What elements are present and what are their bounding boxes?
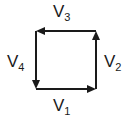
vector-label-v2: V2	[104, 53, 121, 73]
vector-diagram: V3 V2 V4 V1	[0, 0, 129, 120]
vector-v4-arrowhead	[32, 80, 40, 89]
vector-v3-arrow	[36, 27, 96, 35]
vector-v3-arrowhead	[36, 27, 45, 35]
vector-label-v4: V4	[7, 53, 24, 73]
vector-v1-arrow	[36, 85, 96, 93]
vector-label-v1-subscript: 1	[64, 105, 70, 117]
vector-label-v4-base: V	[7, 52, 18, 71]
vector-label-v2-subscript: 2	[115, 61, 121, 73]
vector-label-v2-base: V	[104, 52, 115, 71]
vector-v1-arrowhead	[87, 85, 96, 93]
vector-label-v3-subscript: 3	[64, 11, 70, 23]
vector-label-v1-base: V	[53, 96, 64, 115]
vector-v2-arrow	[92, 31, 100, 89]
vector-label-v3-base: V	[53, 2, 64, 21]
vector-label-v4-subscript: 4	[18, 61, 24, 73]
vector-label-v1: V1	[53, 97, 70, 117]
vector-v2-arrowhead	[92, 31, 100, 40]
vector-v4-arrow	[32, 31, 40, 89]
vector-label-v3: V3	[53, 3, 70, 23]
